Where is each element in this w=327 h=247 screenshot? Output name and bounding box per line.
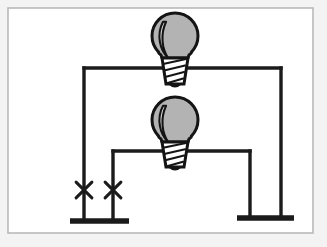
ground-right (237, 215, 294, 221)
circuit-schematic-canvas (0, 0, 327, 247)
circuit-diagram-figure (0, 0, 327, 247)
ground-left (70, 218, 129, 224)
